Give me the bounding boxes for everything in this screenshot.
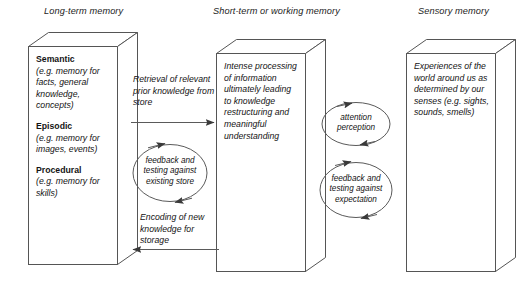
short-term-memory-content: Intense processing of information ultima…: [224, 61, 298, 142]
memory-entry-episodic-heading: Episodic: [36, 121, 112, 133]
memory-entry-procedural-description: (e.g. memory for skills): [36, 176, 112, 199]
feedback-expectation-label: feedback and testing against expectation: [321, 174, 391, 205]
memory-entry-procedural-heading: Procedural: [36, 165, 112, 177]
memory-entry-procedural: Procedural (e.g. memory for skills): [36, 165, 112, 200]
memory-model-diagram: Long-term memory Short-term or working m…: [0, 0, 527, 282]
memory-entry-semantic: Semantic (e.g. memory for facts, general…: [36, 54, 112, 112]
retrieval-arrow-label: Retrieval of relevant prior knowledge fr…: [133, 74, 217, 109]
feedback-existing-store-label: feedback and testing against existing st…: [134, 156, 206, 187]
memory-entry-semantic-heading: Semantic: [36, 54, 112, 66]
attention-perception-label: attention perception: [324, 113, 388, 134]
memory-entry-semantic-description: (e.g. memory for facts, general knowledg…: [36, 66, 112, 112]
memory-entry-episodic-description: (e.g. memory for images, events): [36, 133, 112, 156]
encoding-arrow-label: Encoding of new knowledge for storage: [140, 212, 224, 247]
column-title-short-term: Short-term or working memory: [213, 6, 340, 16]
sensory-memory-content: Experiences of the world around us as de…: [414, 61, 490, 119]
long-term-memory-content: Semantic (e.g. memory for facts, general…: [36, 54, 112, 200]
column-title-long-term: Long-term memory: [44, 6, 123, 16]
memory-entry-episodic: Episodic (e.g. memory for images, events…: [36, 121, 112, 156]
column-title-sensory: Sensory memory: [418, 6, 489, 16]
